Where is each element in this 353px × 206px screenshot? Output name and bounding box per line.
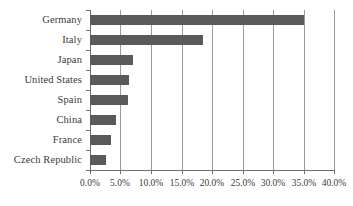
bar-germany[interactable] xyxy=(90,15,304,25)
x-tick-10 xyxy=(151,170,152,174)
x-axis-label-8: 40.0% xyxy=(312,176,353,190)
x-tick-25 xyxy=(243,170,244,174)
x-tick-0 xyxy=(90,170,91,174)
x-axis-tick-labels: 0.0% 5.0% 10.0% 15.0% 20.0% 25.0% 30.0% … xyxy=(0,176,353,194)
y-axis-label-4: Spain xyxy=(58,90,82,110)
y-axis-label-3: United States xyxy=(24,70,82,90)
y-axis-label-2: Japan xyxy=(58,50,82,70)
x-tick-40 xyxy=(334,170,335,174)
bar-row xyxy=(90,10,334,30)
x-tick-20 xyxy=(212,170,213,174)
bar-row xyxy=(90,150,334,170)
bar-france[interactable] xyxy=(90,135,111,145)
y-axis-label-6: France xyxy=(53,130,82,150)
gridline-40 xyxy=(334,10,335,170)
y-axis-label-1: Italy xyxy=(62,30,82,50)
bar-row xyxy=(90,70,334,90)
bar-row xyxy=(90,30,334,50)
bar-row xyxy=(90,50,334,70)
x-tick-15 xyxy=(182,170,183,174)
bar-chart: Germany Italy Japan United States Spain … xyxy=(0,0,353,206)
x-tick-5 xyxy=(120,170,121,174)
x-tick-35 xyxy=(304,170,305,174)
bar-row xyxy=(90,130,334,150)
bar-spain[interactable] xyxy=(90,95,128,105)
plot-area xyxy=(90,10,334,170)
bar-japan[interactable] xyxy=(90,55,133,65)
x-tick-30 xyxy=(273,170,274,174)
y-axis-category-labels: Germany Italy Japan United States Spain … xyxy=(0,10,86,170)
bar-czech-republic[interactable] xyxy=(90,155,106,165)
y-axis-label-0: Germany xyxy=(42,10,82,30)
bar-united-states[interactable] xyxy=(90,75,129,85)
bar-row xyxy=(90,90,334,110)
bar-china[interactable] xyxy=(90,115,116,125)
y-axis-label-5: China xyxy=(56,110,82,130)
bar-row xyxy=(90,110,334,130)
y-axis-label-7: Czech Republic xyxy=(14,150,82,170)
bar-italy[interactable] xyxy=(90,35,203,45)
